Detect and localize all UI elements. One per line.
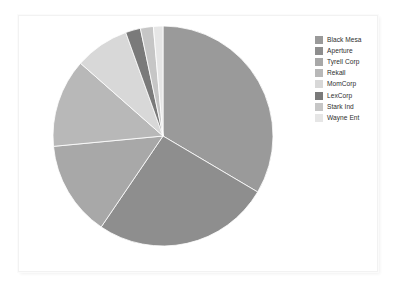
legend-item-label: Aperture bbox=[327, 47, 353, 55]
legend-item-label: MomCorp bbox=[327, 80, 356, 88]
screenshot-root: Black MesaApertureTyrell CorpRekallMomCo… bbox=[0, 0, 399, 287]
legend-item[interactable]: Stark Ind bbox=[315, 101, 391, 112]
legend-item-label: Rekall bbox=[327, 69, 346, 77]
legend-swatch-icon bbox=[315, 80, 323, 88]
chart-legend: Black MesaApertureTyrell CorpRekallMomCo… bbox=[315, 34, 391, 124]
legend-swatch-icon bbox=[315, 58, 323, 66]
legend-item-label: Black Mesa bbox=[327, 36, 362, 44]
legend-item[interactable]: Wayne Ent bbox=[315, 112, 391, 123]
legend-item-label: Wayne Ent bbox=[327, 114, 359, 122]
legend-swatch-icon bbox=[315, 92, 323, 100]
legend-swatch-icon bbox=[315, 114, 323, 122]
legend-swatch-icon bbox=[315, 47, 323, 55]
legend-item-label: Stark Ind bbox=[327, 103, 354, 111]
legend-item[interactable]: MomCorp bbox=[315, 79, 391, 90]
legend-item-label: LexCorp bbox=[327, 92, 352, 100]
legend-item[interactable]: Tyrell Corp bbox=[315, 56, 391, 67]
legend-item[interactable]: Rekall bbox=[315, 68, 391, 79]
legend-item[interactable]: Aperture bbox=[315, 45, 391, 56]
legend-item[interactable]: Black Mesa bbox=[315, 34, 391, 45]
legend-item[interactable]: LexCorp bbox=[315, 90, 391, 101]
pie-slice-group bbox=[53, 26, 273, 246]
pie-chart[interactable] bbox=[43, 16, 283, 256]
plot-area: Black MesaApertureTyrell CorpRekallMomCo… bbox=[19, 16, 379, 273]
chart-frame: Black MesaApertureTyrell CorpRekallMomCo… bbox=[18, 15, 378, 272]
legend-swatch-icon bbox=[315, 69, 323, 77]
legend-swatch-icon bbox=[315, 36, 323, 44]
legend-swatch-icon bbox=[315, 103, 323, 111]
legend-item-label: Tyrell Corp bbox=[327, 58, 359, 66]
